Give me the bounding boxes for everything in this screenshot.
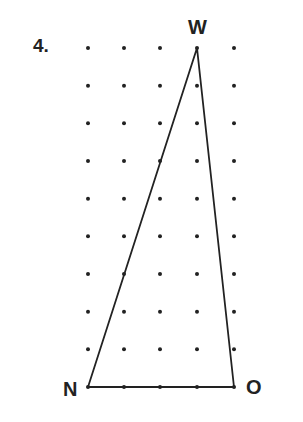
triangle-figure [0,0,303,422]
grid-dot [232,234,236,238]
grid-dot [158,272,162,276]
grid-dot [86,46,90,50]
grid-dot [122,46,126,50]
grid-dot [232,347,236,351]
grid-dot [158,84,162,88]
dot-grid-diagram: 4. W N O [0,0,303,422]
grid-dot [122,347,126,351]
grid-dot [195,84,199,88]
grid-dot [195,347,199,351]
grid-dot [86,197,90,201]
grid-dot [86,121,90,125]
grid-dot [86,159,90,163]
grid-dot [122,159,126,163]
grid-dot [232,272,236,276]
grid-dot [195,159,199,163]
grid-dot [195,234,199,238]
grid-dot [232,46,236,50]
grid-dot [122,84,126,88]
grid-dot [195,121,199,125]
grid-dot [232,159,236,163]
grid-dot [122,197,126,201]
grid-dot [86,310,90,314]
grid-dot [86,234,90,238]
grid-dot [232,310,236,314]
triangle-nwo [88,48,234,387]
grid-dot [122,234,126,238]
grid-dot [158,121,162,125]
grid-dot [158,347,162,351]
grid-dot [232,197,236,201]
grid-dot [86,347,90,351]
grid-dot [158,197,162,201]
grid-dot [195,197,199,201]
grid-dot [158,310,162,314]
grid-dot [86,272,90,276]
grid-dot [158,46,162,50]
grid-dot [195,310,199,314]
grid-dot [232,84,236,88]
grid-dot [232,121,236,125]
grid-dot [195,272,199,276]
grid-dot [86,84,90,88]
grid-dot [122,121,126,125]
grid-dot [122,310,126,314]
grid-dot [158,234,162,238]
